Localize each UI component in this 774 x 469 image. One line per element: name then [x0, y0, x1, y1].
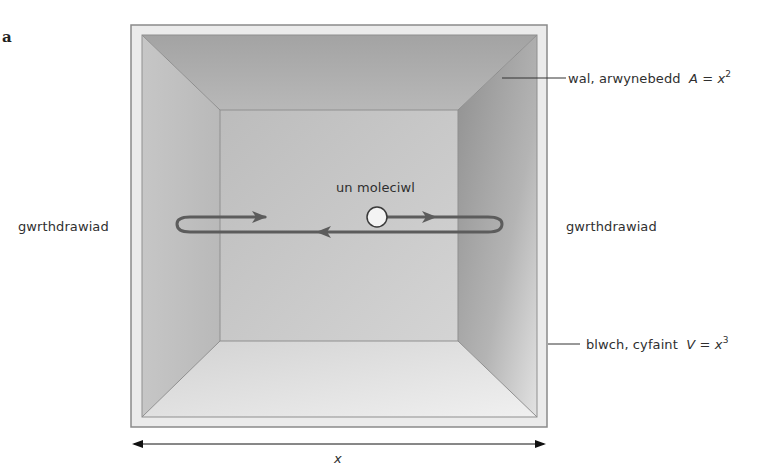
molecule-icon — [367, 207, 387, 227]
box-volume-var: V — [686, 337, 695, 352]
wall-label-text: wal, arwynebedd — [568, 71, 681, 86]
arrow-right-icon — [535, 440, 546, 448]
wall-exponent: 2 — [725, 69, 731, 79]
box-label-text: blwch, cyfaint — [586, 337, 678, 352]
arrow-left-icon — [132, 440, 143, 448]
dimension-label: x — [334, 451, 342, 466]
molecule-label: un moleciwl — [336, 180, 415, 195]
box-equals: = — [695, 337, 714, 352]
box-base: x — [715, 337, 723, 352]
wall-label: wal, arwynebedd A = x2 — [568, 70, 731, 86]
wall-equals: = — [698, 71, 717, 86]
collision-right-label: gwrthdrawiad — [566, 219, 657, 234]
collision-left-label: gwrthdrawiad — [18, 219, 109, 234]
wall-area-var: A — [689, 71, 698, 86]
box-exponent: 3 — [723, 335, 729, 345]
box-label: blwch, cyfaint V = x3 — [586, 336, 728, 352]
box-back-wall — [220, 110, 458, 341]
